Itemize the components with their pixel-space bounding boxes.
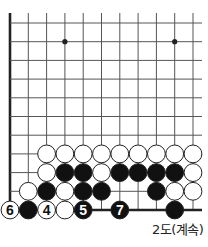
star-point xyxy=(62,39,67,44)
black-stone xyxy=(19,201,37,219)
black-stone xyxy=(111,164,129,182)
white-stone: 4 xyxy=(38,201,56,219)
white-stone: 6 xyxy=(1,201,19,219)
white-stone xyxy=(38,145,56,163)
move-number-label: 4 xyxy=(43,202,51,218)
move-number-label: 7 xyxy=(116,202,124,218)
black-stone xyxy=(148,182,166,200)
move-number-label: 5 xyxy=(79,202,87,218)
white-stone xyxy=(93,145,111,163)
black-stone xyxy=(166,201,184,219)
white-stone xyxy=(166,182,184,200)
white-stone xyxy=(166,145,184,163)
white-stone xyxy=(111,145,129,163)
black-stone: 7 xyxy=(111,201,129,219)
go-board: 6457 xyxy=(0,0,208,247)
black-stone xyxy=(38,182,56,200)
white-stone xyxy=(38,164,56,182)
black-stone xyxy=(166,164,184,182)
white-stone xyxy=(184,145,202,163)
white-stone xyxy=(56,145,74,163)
white-stone xyxy=(184,164,202,182)
black-stone xyxy=(56,164,74,182)
white-stone xyxy=(148,145,166,163)
black-stone: 5 xyxy=(74,201,92,219)
black-stone xyxy=(74,182,92,200)
black-stone xyxy=(93,182,111,200)
star-point xyxy=(172,39,177,44)
black-stone xyxy=(148,164,166,182)
black-stone xyxy=(129,164,147,182)
white-stone xyxy=(93,164,111,182)
white-stone xyxy=(19,182,37,200)
white-stone xyxy=(129,145,147,163)
white-stone xyxy=(56,182,74,200)
white-stone xyxy=(184,182,202,200)
move-number-label: 6 xyxy=(6,202,14,218)
black-stone xyxy=(74,164,92,182)
white-stone xyxy=(74,145,92,163)
white-stone xyxy=(56,201,74,219)
diagram-caption: 2도(계속) xyxy=(152,219,203,238)
